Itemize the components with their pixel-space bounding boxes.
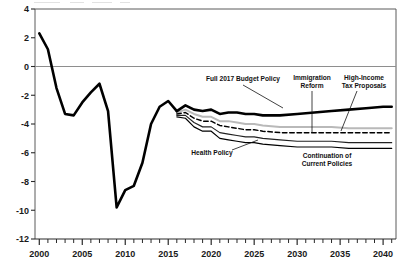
- x-axis-tick-label: 2010: [115, 249, 135, 259]
- y-axis-tick-label: -10: [16, 206, 29, 216]
- x-axis-tick-label: 2040: [373, 249, 393, 259]
- series-line-immigration-reform: [177, 110, 392, 129]
- plot-frame: [35, 9, 396, 239]
- x-axis-tick-label: 2035: [330, 249, 350, 259]
- annotation-label-full-2017-budget-policy: Full 2017 Budget Policy: [206, 75, 280, 83]
- y-axis-tick-label: 4: [24, 4, 29, 14]
- y-axis-tick-label: -4: [21, 119, 29, 129]
- y-axis-tick-label: -6: [21, 148, 29, 158]
- y-axis-tick-label: -12: [16, 234, 29, 244]
- x-axis-tick-label: 2005: [72, 249, 92, 259]
- annotation-label-health-policy: Health Policy: [191, 149, 233, 157]
- annotation-label-continuation-of-current-policies: Continuation ofCurrent Policies: [302, 152, 353, 167]
- annotation-label-high-income-tax-proposals: High-IncomeTax Proposals: [342, 74, 387, 90]
- y-axis-tick-label: -8: [21, 177, 29, 187]
- deficit-projection-chart: 420-2-4-6-8-10-1220002005201020152020202…: [0, 0, 405, 265]
- x-axis-tick-label: 2015: [158, 249, 178, 259]
- x-axis-tick-label: 2030: [287, 249, 307, 259]
- annotation-label-immigration-reform: ImmigrationReform: [293, 74, 331, 89]
- x-axis-tick-label: 2020: [201, 249, 221, 259]
- x-axis-tick-label: 2000: [29, 249, 49, 259]
- x-axis-tick-label: 2025: [244, 249, 264, 259]
- y-axis-tick-label: 2: [24, 33, 29, 43]
- y-axis-tick-label: 0: [24, 62, 29, 72]
- chart-canvas: 420-2-4-6-8-10-1220002005201020152020202…: [0, 0, 405, 265]
- annotation-leader-full-2017-budget-policy: [243, 85, 283, 108]
- series-line-historical: [39, 33, 177, 207]
- series-line-full-2017-budget-policy: [177, 105, 392, 115]
- y-axis-tick-label: -2: [21, 91, 29, 101]
